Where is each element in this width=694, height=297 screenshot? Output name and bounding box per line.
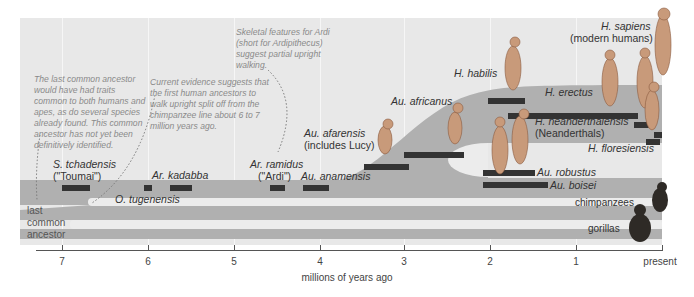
label-tchadensis-nickname: ("Toumai") bbox=[53, 170, 101, 182]
label-sapiens-common: (modern humans) bbox=[570, 32, 653, 44]
label-ramidus-nickname: ("Ardi") bbox=[258, 170, 291, 182]
tick bbox=[62, 245, 63, 250]
tick bbox=[404, 245, 405, 250]
tick-label: 3 bbox=[401, 256, 407, 267]
label-afarensis: Au. afarensis bbox=[304, 127, 365, 139]
label-tchadensis: S. tchadensis bbox=[53, 158, 116, 170]
label-sapiens: H. sapiens bbox=[601, 20, 651, 32]
tick-label: present bbox=[643, 256, 676, 267]
tick bbox=[148, 245, 149, 250]
tick bbox=[576, 245, 577, 250]
label-gorillas: gorillas bbox=[588, 223, 620, 235]
label-erectus: H. erectus bbox=[545, 86, 593, 98]
note-common-ancestor: The last common ancestor would have had … bbox=[34, 74, 146, 151]
tick-label: 6 bbox=[145, 256, 151, 267]
label-kadabba: Ar. kadabba bbox=[152, 169, 208, 181]
label-ancestor-1: last bbox=[27, 205, 43, 217]
label-chimpanzees: chimpanzees bbox=[575, 197, 634, 209]
note-upright-split: Current evidence suggests that the first… bbox=[150, 77, 272, 132]
x-axis bbox=[36, 250, 663, 251]
tick bbox=[320, 245, 321, 250]
label-boisei: Au. boisei bbox=[550, 179, 596, 191]
tick bbox=[234, 245, 235, 250]
tick-label: 1 bbox=[573, 256, 579, 267]
label-ancestor-2: common bbox=[27, 217, 65, 229]
tick bbox=[490, 245, 491, 250]
tick-label: 5 bbox=[231, 256, 237, 267]
label-habilis: H. habilis bbox=[454, 67, 497, 79]
label-anamensis: Au. anamensis bbox=[301, 170, 370, 182]
axis-title: millions of years ago bbox=[301, 272, 392, 283]
label-floresiensis: H. floresiensis bbox=[588, 142, 654, 154]
label-ancestor-3: ancestor bbox=[27, 229, 65, 241]
tick-label: 4 bbox=[317, 256, 323, 267]
label-afarensis-note: (includes Lucy) bbox=[304, 139, 375, 151]
label-africanus: Au. africanus bbox=[391, 95, 452, 107]
tick-label: 7 bbox=[59, 256, 65, 267]
label-tugenensis: O. tugenensis bbox=[115, 193, 180, 205]
label-neanderthalensis-common: (Neanderthals) bbox=[535, 127, 604, 139]
label-ramidus: Ar. ramidus bbox=[250, 158, 303, 170]
tick-label: 2 bbox=[487, 256, 493, 267]
label-neanderthalensis: H. neanderthalensis bbox=[535, 115, 628, 127]
tick bbox=[662, 245, 663, 250]
note-ardi: Skeletal features for Ardi (short for Ar… bbox=[236, 27, 336, 71]
label-robustus: Au. robustus bbox=[537, 166, 596, 178]
